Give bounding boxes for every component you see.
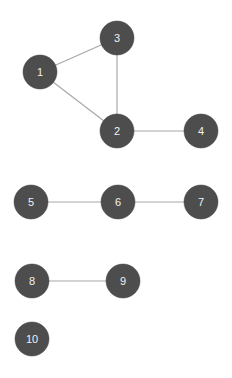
node-10[interactable]: 10 bbox=[15, 322, 49, 356]
node-label: 1 bbox=[37, 66, 43, 78]
node-1[interactable]: 1 bbox=[23, 55, 57, 89]
node-label: 8 bbox=[29, 275, 35, 287]
node-5[interactable]: 5 bbox=[14, 185, 48, 219]
node-label: 6 bbox=[115, 196, 121, 208]
node-label: 4 bbox=[198, 125, 204, 137]
node-7[interactable]: 7 bbox=[184, 185, 218, 219]
node-label: 10 bbox=[26, 333, 38, 345]
node-label: 9 bbox=[120, 275, 126, 287]
node-3[interactable]: 3 bbox=[100, 21, 134, 55]
node-4[interactable]: 4 bbox=[184, 114, 218, 148]
node-label: 2 bbox=[114, 125, 120, 137]
node-9[interactable]: 9 bbox=[106, 264, 140, 298]
nodes-layer: 12345678910 bbox=[14, 21, 218, 356]
node-label: 3 bbox=[114, 32, 120, 44]
node-label: 5 bbox=[28, 196, 34, 208]
node-6[interactable]: 6 bbox=[101, 185, 135, 219]
graph-canvas: 12345678910 bbox=[0, 0, 232, 378]
node-label: 7 bbox=[198, 196, 204, 208]
node-8[interactable]: 8 bbox=[15, 264, 49, 298]
node-2[interactable]: 2 bbox=[100, 114, 134, 148]
